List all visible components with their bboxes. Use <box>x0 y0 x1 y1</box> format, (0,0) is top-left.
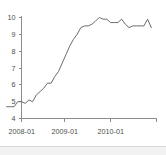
footer-band <box>0 146 166 155</box>
y-tick-label: 6 <box>12 80 16 89</box>
x-tick-label: 2010-01 <box>98 127 124 136</box>
data-series-line <box>7 18 152 107</box>
y-tick-label: 4 <box>12 114 16 123</box>
x-axis-tick-labels: 2008-012009-012010-01 <box>9 127 124 136</box>
x-tick-label: 2008-01 <box>9 127 35 136</box>
y-tick-label: 7 <box>12 64 16 73</box>
y-tick-label: 10 <box>8 13 16 22</box>
line-chart: 45678910 2008-012009-012010-01 <box>0 0 166 155</box>
y-tick-label: 9 <box>12 30 16 39</box>
y-tick-label: 8 <box>12 47 16 56</box>
chart-figure: 45678910 2008-012009-012010-01 <box>0 0 166 155</box>
x-tick-label: 2009-01 <box>52 127 78 136</box>
